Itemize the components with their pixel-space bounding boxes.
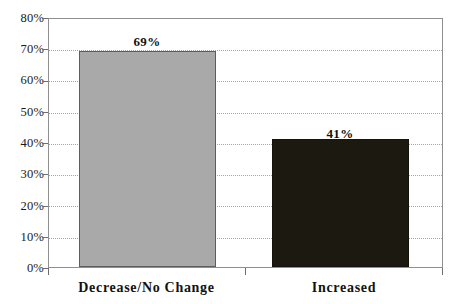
- y-axis-label-40: 40%: [4, 137, 44, 150]
- y-axis-label-0: 0%: [4, 262, 44, 275]
- y-axis-label-50: 50%: [4, 106, 44, 119]
- y-axis-label-20: 20%: [4, 200, 44, 213]
- y-axis-label-80: 80%: [4, 12, 44, 25]
- value-label-increased: 41%: [271, 127, 409, 140]
- x-axis-tick-right: [442, 268, 443, 275]
- x-axis-label-decrease-no-change: Decrease/No Change: [48, 281, 245, 295]
- y-axis-label-60: 60%: [4, 74, 44, 87]
- value-label-decrease-no-change: 69%: [78, 35, 216, 48]
- y-axis-label-70: 70%: [4, 43, 44, 56]
- x-axis-label-increased: Increased: [245, 281, 443, 295]
- bar-decrease-no-change[interactable]: [79, 51, 216, 267]
- x-axis-tick-left: [48, 268, 49, 275]
- y-axis-label-30: 30%: [4, 168, 44, 181]
- x-axis-tick-middle: [245, 268, 246, 275]
- bar-increased[interactable]: [272, 139, 409, 267]
- y-axis-label-10: 10%: [4, 231, 44, 244]
- plot-area: [48, 18, 443, 268]
- bar-chart: 80% 70% 60% 50% 40% 30% 20% 10% 0% 69% 4…: [0, 0, 459, 304]
